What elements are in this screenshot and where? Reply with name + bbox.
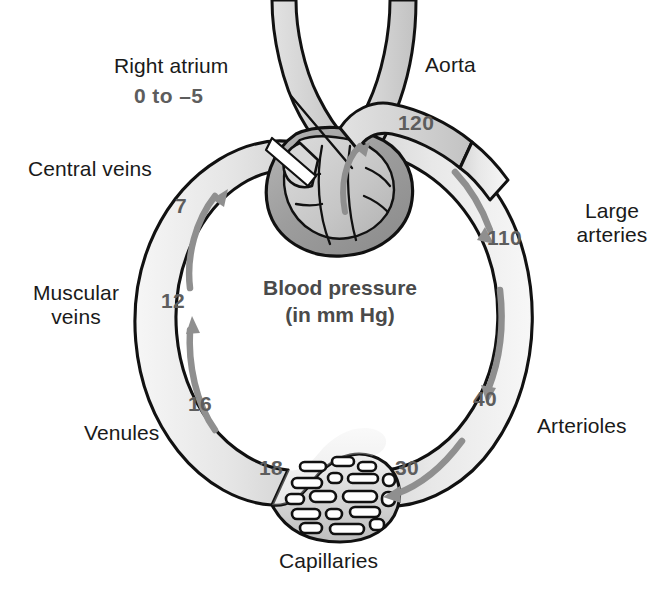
blood-pressure-diagram: Right atrium 0 to –5 Aorta 120 Central v… — [0, 0, 652, 589]
value-venules: 16 — [188, 392, 212, 416]
label-muscular-veins: Muscular veins — [22, 281, 130, 328]
value-muscular-veins: 12 — [161, 289, 185, 313]
label-capillaries: Capillaries — [279, 549, 378, 573]
label-muscular-veins-line1: Muscular — [33, 281, 119, 304]
label-large-arteries-line2: arteries — [577, 223, 648, 246]
label-central-veins: Central veins — [28, 157, 152, 181]
label-large-arteries: Large arteries — [574, 199, 650, 246]
figure-title-line2: (in mm Hg) — [210, 302, 470, 329]
label-aorta: Aorta — [425, 53, 476, 77]
label-right-atrium: Right atrium — [114, 54, 228, 78]
value-arterioles: 40 — [473, 387, 497, 411]
label-arterioles: Arterioles — [537, 414, 627, 438]
label-venules: Venules — [84, 421, 159, 445]
value-aorta: 120 — [398, 111, 434, 135]
value-right-atrium: 0 to –5 — [134, 84, 203, 108]
figure-title-line1: Blood pressure — [263, 276, 417, 299]
value-central-veins: 7 — [175, 194, 187, 218]
value-capillaries-out: 18 — [259, 456, 283, 480]
capillary-bed — [272, 428, 400, 542]
figure-title: Blood pressure (in mm Hg) — [210, 275, 470, 329]
value-large-arteries: 110 — [487, 226, 522, 250]
value-capillaries-in: 30 — [395, 456, 419, 480]
label-muscular-veins-line2: veins — [51, 305, 101, 328]
label-large-arteries-line1: Large — [585, 199, 639, 222]
